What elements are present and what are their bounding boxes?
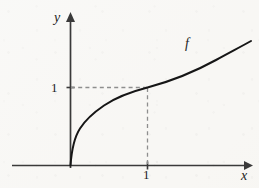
function-curve-f <box>71 41 252 166</box>
curve-label-f: f <box>185 37 189 51</box>
graph-canvas <box>0 0 259 188</box>
x-axis-tick-label-1: 1 <box>143 168 150 181</box>
x-axis-label: x <box>241 169 247 183</box>
function-graph-figure: y x f 1 1 <box>0 0 259 188</box>
y-axis-tick-label-1: 1 <box>51 81 58 94</box>
y-axis-label: y <box>54 11 60 25</box>
y-axis-arrow-icon <box>66 12 75 22</box>
